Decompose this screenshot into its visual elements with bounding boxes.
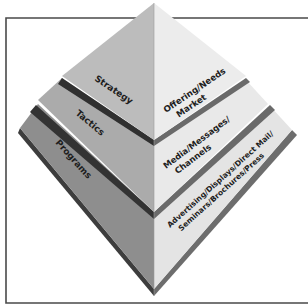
pyramid-svg: Strategy Tactics Programs Offering/Needs… (0, 0, 308, 308)
pyramid-diagram: Strategy Tactics Programs Offering/Needs… (0, 0, 308, 308)
